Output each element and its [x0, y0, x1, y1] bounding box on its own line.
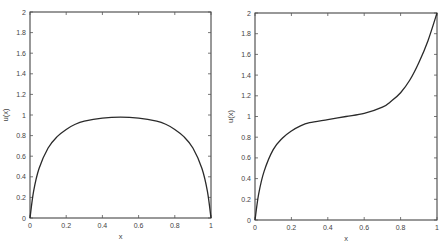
y-tick-label: 1.6: [16, 50, 26, 57]
y-tick-label: 0.4: [16, 173, 26, 180]
x-axis-label: x: [344, 234, 348, 243]
y-tick-label: 2: [22, 9, 26, 16]
y-tick-label: 0.2: [241, 196, 251, 203]
y-tick-label: 1.8: [241, 30, 251, 37]
chart-canvas: 00.20.40.60.8100.20.40.60.811.21.41.61.8…: [0, 0, 446, 245]
y-tick-label: 1: [247, 113, 251, 120]
x-tick-label: 0.4: [323, 224, 333, 231]
x-axis-label: x: [119, 232, 123, 241]
x-tick-label: 0.2: [287, 224, 297, 231]
y-tick-label: 0: [247, 217, 251, 224]
y-tick-label: 1.2: [241, 92, 251, 99]
y-tick-label: 0: [22, 215, 26, 222]
y-tick-label: 0.4: [241, 175, 251, 182]
x-tick-label: 0.2: [61, 222, 71, 229]
y-tick-label: 1.2: [16, 91, 26, 98]
x-tick-label: 0.6: [359, 224, 369, 231]
x-tick-label: 1: [209, 222, 213, 229]
y-tick-label: 0.6: [16, 153, 26, 160]
x-tick-label: 0.8: [170, 222, 180, 229]
y-tick-label: 1.4: [16, 70, 26, 77]
y-tick-label: 1.6: [241, 51, 251, 58]
y-axis-label: u(x): [226, 110, 235, 123]
y-tick-label: 1.8: [16, 29, 26, 36]
x-tick-label: 1: [435, 224, 439, 231]
x-tick-label: 0.4: [98, 222, 108, 229]
y-tick-label: 0.8: [241, 134, 251, 141]
plot-frame: [30, 12, 211, 218]
plot-1: 00.20.40.60.8100.20.40.60.811.21.41.61.8…: [1, 9, 213, 242]
x-tick-label: 0: [253, 224, 257, 231]
x-tick-label: 0.8: [396, 224, 406, 231]
data-curve: [255, 13, 437, 220]
y-tick-label: 1.4: [241, 72, 251, 79]
y-tick-label: 0.8: [16, 132, 26, 139]
y-tick-label: 0.2: [16, 194, 26, 201]
y-axis-label: u(x): [1, 108, 10, 121]
x-tick-label: 0: [28, 222, 32, 229]
x-tick-label: 0.6: [134, 222, 144, 229]
y-tick-label: 0.6: [241, 154, 251, 161]
y-tick-label: 2: [247, 10, 251, 17]
data-curve: [30, 117, 211, 218]
plot-2: 00.20.40.60.8100.20.40.60.811.21.41.61.8…: [226, 10, 439, 244]
y-tick-label: 1: [22, 112, 26, 119]
